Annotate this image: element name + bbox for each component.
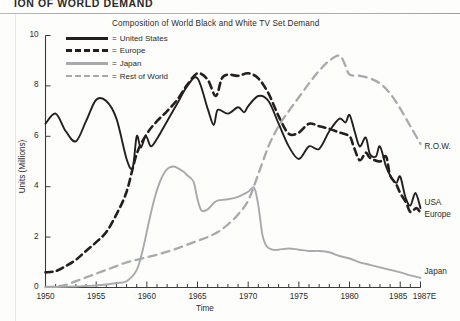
y-axis-tick-label: 8 (23, 80, 39, 89)
y-axis-tick-label: 2 (23, 232, 39, 241)
y-axis-title: Units (Millions) (18, 125, 27, 209)
x-axis-tick-label: 1975 (284, 292, 314, 301)
x-axis-tick-label: 1987E (410, 292, 440, 301)
page-header-text: ION OF WORLD DEMAND (14, 0, 153, 9)
x-axis-tick-label: 1950 (31, 292, 61, 301)
chart-figure: Composition of World Black and White TV … (0, 14, 460, 321)
x-axis-tick-label: 1960 (132, 292, 162, 301)
series-end-label-usa: USA (425, 198, 442, 207)
scanned-page: ION OF WORLD DEMAND Composition of World… (0, 0, 460, 321)
x-axis-tick-label: 1965 (183, 292, 213, 301)
chart-plot-area (0, 14, 460, 321)
series-end-label-europe: Europe (425, 210, 451, 219)
x-axis-title: Time (196, 304, 214, 313)
series-end-label-japan: Japan (425, 267, 447, 276)
x-axis-tick-label: 1955 (81, 292, 111, 301)
x-axis-tick-label: 1980 (335, 292, 365, 301)
y-axis-tick-label: 0 (23, 282, 39, 291)
x-axis-tick-label: 1970 (233, 292, 263, 301)
series-end-label-r-o-w: R.O.W. (425, 142, 451, 151)
y-axis-tick-label: 10 (23, 30, 39, 39)
